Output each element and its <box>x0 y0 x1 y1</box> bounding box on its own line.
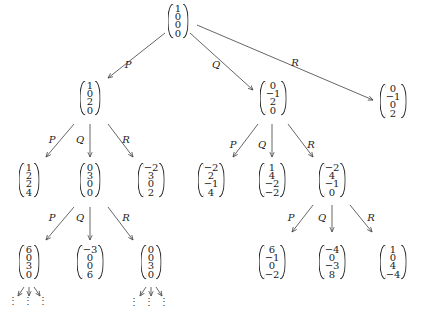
vector-entry: −2 <box>265 270 280 278</box>
edge-label-p: P <box>230 139 237 150</box>
edge-label-p: P <box>288 212 295 223</box>
edge-label-r: R <box>122 212 130 223</box>
edge-label-p: P <box>49 212 56 223</box>
vector-entries: 1020 <box>86 81 95 116</box>
vector-entries: 0−120 <box>266 81 281 116</box>
vector-entries: −22−14 <box>204 163 219 198</box>
edge-label-r: R <box>291 57 299 68</box>
edge-label-q: Q <box>76 212 84 223</box>
vector-node-qp: −22−14 <box>198 163 225 198</box>
right-paren <box>97 245 103 280</box>
vector-node-qrp: 6−10−2 <box>259 245 286 280</box>
vector-entries: −3006 <box>83 245 98 280</box>
vector-entries: −24−10 <box>325 163 340 198</box>
right-paren <box>400 84 406 119</box>
edge-arrow <box>140 287 146 296</box>
vector-node-qrr: 104−4 <box>380 245 407 280</box>
right-paren <box>95 81 101 116</box>
vector-entry: 0 <box>26 270 32 278</box>
vector-entry: 0 <box>87 106 93 114</box>
vector-node-qr: −24−10 <box>319 163 346 198</box>
right-paren <box>34 163 40 198</box>
vector-node-qrq: −40−38 <box>319 245 346 280</box>
vector-entry: −4 <box>386 270 401 278</box>
vector-entry: 0 <box>270 106 276 114</box>
right-paren <box>339 163 345 198</box>
right-paren <box>34 245 40 280</box>
vector-entry: 0 <box>148 270 154 278</box>
vector-entry: 0 <box>87 188 93 196</box>
right-paren <box>158 163 164 198</box>
vector-node-pqp: 6030 <box>19 245 40 280</box>
vector-node-pqq: −3006 <box>77 245 104 280</box>
vector-node-r: 0−102 <box>380 84 407 119</box>
vector-node-pqr: 0030 <box>141 245 162 280</box>
vector-entry: 0 <box>175 29 181 37</box>
vector-entries: −2302 <box>144 163 159 198</box>
vector-entry: 6 <box>87 270 93 278</box>
vector-node-p: 1020 <box>80 81 101 116</box>
vertical-ellipsis-icon: ⋮ <box>8 298 18 303</box>
edge-label-r: R <box>307 139 315 150</box>
vector-node-qq: 14−2−2 <box>259 163 286 198</box>
vector-entry: 2 <box>390 109 396 117</box>
right-paren <box>95 163 101 198</box>
right-paren <box>156 245 162 280</box>
vector-entry: 4 <box>26 188 32 196</box>
vector-entries: 0030 <box>147 245 156 280</box>
edge-label-r: R <box>367 212 375 223</box>
vector-node-pp: 1224 <box>19 163 40 198</box>
right-paren <box>218 163 224 198</box>
vertical-ellipsis-icon: ⋮ <box>144 299 154 304</box>
edge-label-r: R <box>122 134 130 145</box>
right-paren <box>183 4 189 39</box>
vertical-ellipsis-icon: ⋮ <box>159 299 169 304</box>
vector-entries: 6030 <box>25 245 34 280</box>
vector-entries: −40−38 <box>325 245 340 280</box>
edge-label-q: Q <box>258 139 266 150</box>
edge-label-p: P <box>125 59 132 70</box>
right-paren <box>279 163 285 198</box>
edge-arrow <box>233 124 258 157</box>
right-paren <box>400 245 406 280</box>
vector-entries: 14−2−2 <box>265 163 280 198</box>
vertical-ellipsis-icon: ⋮ <box>23 298 33 303</box>
vector-entries: 104−4 <box>386 245 401 280</box>
right-paren <box>339 245 345 280</box>
vector-entry: 2 <box>148 188 154 196</box>
vector-node-pr: −2302 <box>138 163 165 198</box>
right-paren <box>280 81 286 116</box>
vector-node-root: 1000 <box>168 4 189 39</box>
vector-node-pq: 0300 <box>80 163 101 198</box>
edge-arrow <box>108 33 165 78</box>
vector-entry: 8 <box>329 270 335 278</box>
vertical-ellipsis-icon: ⋮ <box>129 299 139 304</box>
edge-label-q: Q <box>212 59 220 70</box>
edge-label-q: Q <box>318 212 326 223</box>
edge-label-q: Q <box>76 134 84 145</box>
right-paren <box>279 245 285 280</box>
vector-entries: 1224 <box>25 163 34 198</box>
vertical-ellipsis-icon: ⋮ <box>38 298 48 303</box>
vector-entries: 1000 <box>174 4 183 39</box>
vector-entries: 6−10−2 <box>265 245 280 280</box>
vector-entry: 0 <box>329 188 335 196</box>
edge-arrow <box>156 287 162 296</box>
vector-entry: −2 <box>265 188 280 196</box>
edge-arrow <box>190 33 253 90</box>
vector-entry: 4 <box>208 188 214 196</box>
edge-arrow <box>292 205 313 232</box>
vector-entries: 0300 <box>86 163 95 198</box>
vector-entries: 0−102 <box>386 84 401 119</box>
vector-node-q: 0−120 <box>260 81 287 116</box>
edge-label-p: P <box>49 134 56 145</box>
